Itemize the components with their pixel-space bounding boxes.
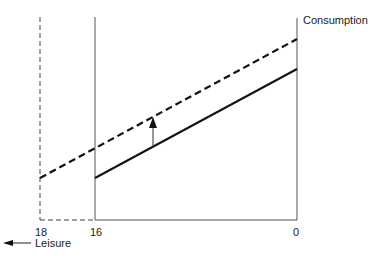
consumption-label: Consumption <box>303 15 368 26</box>
budget-diagram <box>0 0 381 259</box>
leisure-label: Leisure <box>35 238 71 249</box>
tick-16: 16 <box>90 227 102 238</box>
tick-0: 0 <box>293 227 299 238</box>
leisure-arrow-left-icon <box>3 240 13 246</box>
budget-line-dashed <box>40 39 297 178</box>
budget-line-solid <box>95 69 297 178</box>
